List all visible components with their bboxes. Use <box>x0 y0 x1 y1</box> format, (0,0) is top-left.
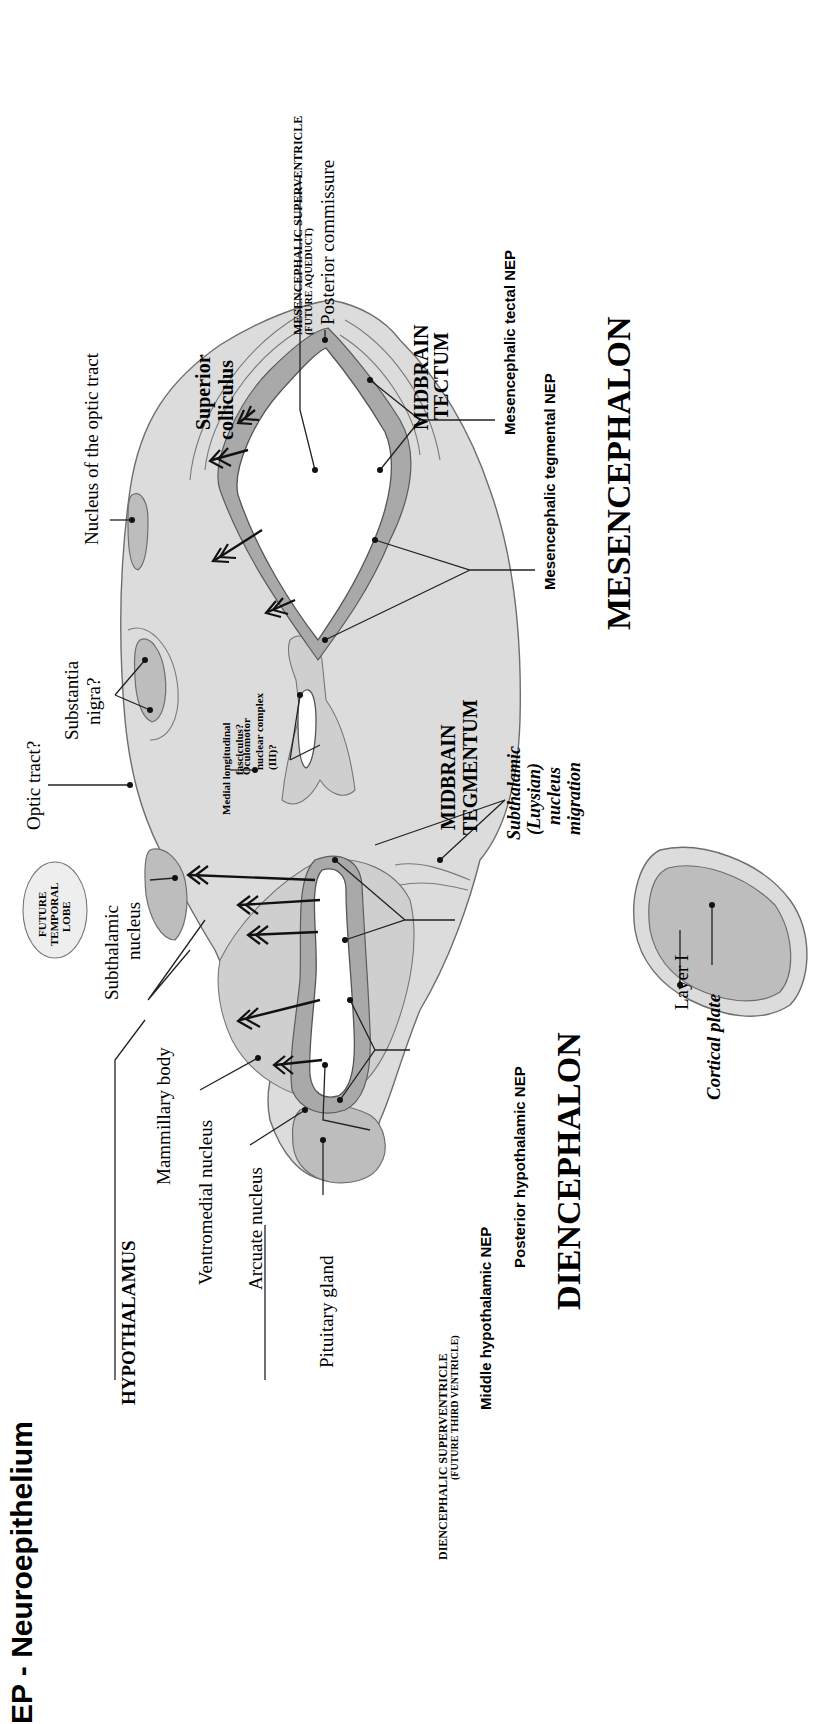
substantia-nigra-label-2: nigra? <box>83 678 104 725</box>
future-temporal-lobe-label-1: FUTURE <box>36 892 48 937</box>
superior-colliculus-label-1: Superior <box>192 354 215 430</box>
cortical-plate-label: Cortical plate <box>703 993 724 1100</box>
figure-title: EP - Neuroepithelium <box>5 1421 38 1724</box>
mesencephalic-tectal-nep-label: Mesencephalic tectal NEP <box>501 250 518 435</box>
diencephalon-label: DIENCEPHALON <box>550 1032 587 1310</box>
ventromedial-nucleus-label: Ventromedial nucleus <box>195 1120 216 1285</box>
mesencephalic-superventricle-sublabel: (FUTURE AQUEDUCT) <box>303 228 315 335</box>
mesencephalon-label: MESENCEPHALON <box>600 316 637 630</box>
diencephalic-superventricle-label: DIENCEPHALIC SUPERVENTRICLE <box>436 1353 450 1560</box>
hypothalamus-label: HYPOTHALAMUS <box>118 1240 139 1405</box>
midbrain-tegmentum-label-2: TEGMENTUM <box>459 699 481 835</box>
optic-tract-label: Optic tract? <box>23 741 44 830</box>
midbrain-tectum-label-2: TECTUM <box>430 332 452 420</box>
subthalamic-migration-label-3: nucleus <box>544 767 564 825</box>
posterior-hypothalamic-nep-label: Posterior hypothalamic NEP <box>511 1066 528 1268</box>
midbrain-tectum-label-1: MIDBRAIN <box>410 324 432 430</box>
subthalamic-nucleus-label-1: Subthalamic <box>101 905 122 1000</box>
pituitary-gland-label: Pituitary gland <box>316 1255 337 1368</box>
subthalamic-migration-label-1: Subthalamic <box>504 746 524 840</box>
subthalamic-nucleus-label-2: nucleus <box>123 902 144 960</box>
nucleus-optic-tract-label: Nucleus of the optic tract <box>81 352 102 545</box>
cortical-plate-island <box>634 847 807 1016</box>
layer-i-label: Layer I <box>671 955 692 1010</box>
nucleus-optic-tract-shape <box>128 494 148 570</box>
subthalamic-migration-label-2: (Luysian) <box>524 763 545 835</box>
mlf-label-1: Medial longitudinal <box>220 722 232 815</box>
mammillary-body-label: Mammillary body <box>153 1047 174 1185</box>
oculomotor-label-2: nuclear complex <box>253 692 265 770</box>
future-temporal-lobe-label-3: LOBE <box>60 901 72 932</box>
substantia-nigra-label-1: Substantia <box>61 660 82 740</box>
arcuate-nucleus-label: Arcuate nucleus <box>245 1167 266 1290</box>
middle-hypothalamic-nep-label: Middle hypothalamic NEP <box>477 1227 494 1410</box>
diencephalic-superventricle-sublabel: (FUTURE THIRD VENTRICLE) <box>449 1335 461 1480</box>
oculomotor-label-1: Oculomotor <box>240 718 252 775</box>
posterior-commissure-label: Posterior commissure <box>317 160 338 325</box>
oculomotor-label-3: (III)? <box>266 744 279 770</box>
superior-colliculus-label-2: colliculus <box>215 360 237 440</box>
future-temporal-lobe-label-2: TEMPORAL <box>48 882 60 946</box>
brain-section-diagram: EP - Neuroepithelium HYPOTHALAMUS Mammil… <box>0 0 822 1724</box>
subthalamic-migration-label-4: migration <box>564 762 584 835</box>
midbrain-tegmentum-label-1: MIDBRAIN <box>437 724 459 830</box>
pituitary-gland-shape <box>293 1105 386 1183</box>
mesencephalic-tegmental-nep-label: Mesencephalic tegmental NEP <box>541 373 558 590</box>
